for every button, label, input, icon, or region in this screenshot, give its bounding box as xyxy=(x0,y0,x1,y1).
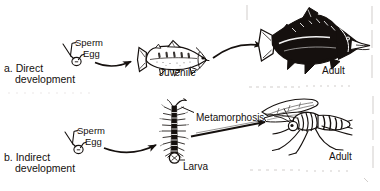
sperm-label-b: Sperm xyxy=(77,126,105,136)
egg-label-a: Egg xyxy=(83,49,100,59)
adult-fish-stage-label: Adult xyxy=(322,66,345,77)
leader-metamorphosis xyxy=(182,107,195,113)
row-b-marker: b. xyxy=(4,151,13,163)
row-b-heading-line1: Indirect xyxy=(16,151,50,163)
egg-label-b: Egg xyxy=(85,137,102,147)
row-a-heading: a. Direct development xyxy=(4,63,75,86)
adult-fish-illustration xyxy=(259,8,371,75)
metamorphosis-label: Metamorphosis xyxy=(196,113,264,124)
row-b-heading: b. Indirect development xyxy=(4,152,75,175)
adult-insect-illustration xyxy=(262,99,353,155)
arrow-egg-to-juvenile-a xyxy=(95,62,131,67)
arrow-juvenile-to-adult-a xyxy=(213,45,262,58)
development-diagram: a. Direct development Sperm Egg Juvenile… xyxy=(0,0,380,191)
row-a-heading-line2: development xyxy=(4,74,75,85)
adult-insect-stage-label: Adult xyxy=(329,152,352,163)
row-b-artwork xyxy=(65,96,373,182)
row-b-heading-line2: development xyxy=(4,163,75,174)
larva-stage-label: Larva xyxy=(183,162,208,173)
arrow-egg-to-larva-b xyxy=(104,145,156,152)
juvenile-stage-label: Juvenile xyxy=(159,68,196,79)
sperm-label-a: Sperm xyxy=(75,38,103,48)
row-a-marker: a. xyxy=(4,62,13,74)
arrow-larva-to-adult-b xyxy=(191,122,265,137)
row-a-heading-line1: Direct xyxy=(16,62,43,74)
